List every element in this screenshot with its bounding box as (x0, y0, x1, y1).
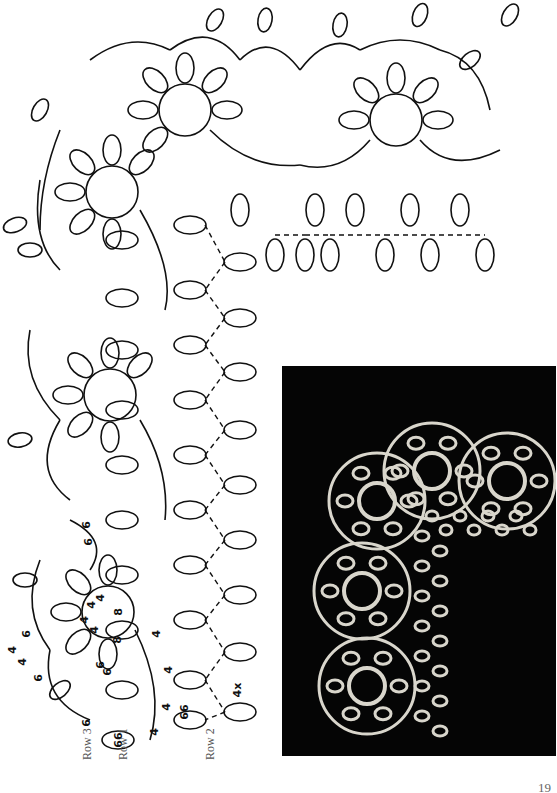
medallion-1-petal-ring (55, 183, 85, 201)
joining-thread (205, 540, 225, 565)
medallion-4-petal-ring (128, 101, 158, 119)
row2-ring (224, 703, 256, 721)
lace-center-ring (349, 668, 385, 704)
lace-row2-ring (433, 576, 447, 586)
medallion-4-petal-ring (212, 101, 242, 119)
row2-ring-top (376, 239, 394, 271)
picot-ring (18, 243, 42, 257)
joining-thread (205, 262, 225, 290)
picot-ring (409, 1, 430, 28)
joining-thread (205, 318, 225, 345)
lace-petal (322, 585, 338, 597)
row1-chain (420, 140, 500, 160)
row1-ring (106, 511, 138, 529)
lace-petal (370, 613, 386, 625)
row2-ring (174, 391, 206, 409)
outer-count: 4 (16, 658, 29, 666)
outer-count: 6 (82, 538, 95, 546)
lace-petal (408, 437, 424, 449)
picot-ring (331, 12, 349, 38)
medallion-1-petal-ring (103, 219, 121, 249)
lace-row2-ring (415, 591, 429, 601)
scallop-chain (47, 420, 70, 500)
scallop-chain (240, 47, 300, 70)
lace-row2-ring (524, 525, 536, 535)
lace-row2-ring (433, 696, 447, 706)
chain-count: 4 (162, 666, 175, 674)
row1-ring (106, 231, 138, 249)
row2-ring (174, 281, 206, 299)
row1-ring (106, 401, 138, 419)
lace-petal (386, 585, 402, 597)
joining-thread (205, 652, 225, 680)
joining-thread (205, 455, 225, 485)
medallion-5-petal-ring (339, 111, 369, 129)
lace-row2-ring (454, 511, 466, 521)
lace-petal (343, 708, 359, 720)
row2-ring (224, 586, 256, 604)
row2-ring (174, 611, 206, 629)
picot-ring (498, 1, 522, 29)
row2-ring-count: 66 (178, 704, 191, 720)
lace-row2-ring (426, 511, 438, 521)
lace-petal (515, 503, 531, 515)
scallop-chain (38, 180, 61, 270)
row2-ring-top (476, 239, 494, 271)
scallop-chain (32, 560, 50, 650)
medallion-3-petal-ring (51, 603, 81, 621)
lace-petal (385, 523, 401, 535)
row2-ring (224, 643, 256, 661)
row2-ring-top (321, 239, 339, 271)
medallion-2-center-ring (84, 369, 136, 421)
picot-ring (203, 6, 227, 34)
scallop-chain (40, 130, 60, 230)
lace-petal (353, 523, 369, 535)
row2-ring (174, 556, 206, 574)
lace-petal (391, 680, 407, 692)
center-ring-count: 4 (94, 594, 107, 602)
lace-row2-ring (468, 525, 480, 535)
lace-petal (483, 447, 499, 459)
lace-petal (338, 557, 354, 569)
row1-ring (106, 681, 138, 699)
outer-count: 6 (32, 674, 45, 682)
row1-chain (300, 140, 370, 167)
lace-petal (353, 467, 369, 479)
lace-row2-ring (433, 636, 447, 646)
row1-ring (106, 566, 138, 584)
medallion-5-center-ring (370, 94, 422, 146)
row1-chain (135, 630, 155, 740)
row1-ring (106, 456, 138, 474)
scallop-chain (360, 40, 440, 50)
lace-center-ring (489, 463, 525, 499)
small-ring-count: 6 (101, 668, 114, 676)
outer-count: 4 (6, 646, 19, 654)
lace-center-ring (359, 483, 395, 519)
row2-ring-top (451, 194, 469, 226)
row2-ring-top (296, 239, 314, 271)
joining-thread (205, 485, 225, 510)
medallion-1-center-ring (86, 166, 138, 218)
lace-row2-ring (415, 561, 429, 571)
center-ring-count: 8 (111, 636, 124, 644)
row2-ring-top (401, 194, 419, 226)
lace-petal (440, 493, 456, 505)
center-ring-count: 4 (88, 626, 101, 634)
row2-ring (224, 421, 256, 439)
row2-ring (224, 363, 256, 381)
medallion-4-petal-ring (176, 53, 194, 83)
lace-row2-ring (415, 681, 429, 691)
row2-ring-top (346, 194, 364, 226)
lace-center-ring (344, 573, 380, 609)
chain-count: 4 (160, 703, 173, 711)
chain-count: 4 (150, 630, 163, 638)
lace-petal (337, 495, 353, 507)
outer-count: 6 (80, 719, 93, 727)
lace-row2-ring (415, 711, 429, 721)
picot-ring (256, 7, 274, 33)
lace-row2-ring (510, 511, 522, 521)
lace-outer-chain (329, 453, 425, 549)
row2-ring (224, 253, 256, 271)
outer-count: 6 (20, 630, 33, 638)
lace-petal (375, 708, 391, 720)
